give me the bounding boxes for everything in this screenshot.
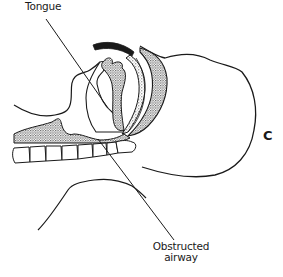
tongue-label: Tongue bbox=[25, 1, 61, 12]
palate-arc bbox=[93, 42, 134, 56]
neck-contour bbox=[38, 179, 146, 230]
airway-leader-line bbox=[98, 139, 174, 240]
obstructed-airway-label-line2: airway bbox=[151, 252, 211, 263]
vertebrae bbox=[13, 141, 136, 164]
airway-diagram: Tongue Obstructed airway C bbox=[0, 0, 283, 277]
airway-illustration bbox=[0, 0, 283, 277]
panel-letter: C bbox=[263, 129, 272, 142]
obstructed-airway-label: Obstructed airway bbox=[151, 241, 211, 263]
